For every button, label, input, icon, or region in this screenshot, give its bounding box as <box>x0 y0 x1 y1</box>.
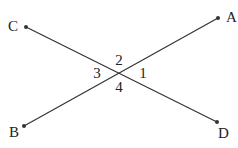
point-b-dot <box>22 124 26 128</box>
point-c-label: C <box>8 18 18 34</box>
point-d-label: D <box>218 125 229 141</box>
point-c-dot <box>24 25 28 29</box>
angle-1-label: 1 <box>139 65 147 81</box>
line-cd <box>26 27 217 122</box>
point-b-label: B <box>9 124 19 140</box>
point-d-dot <box>215 120 219 124</box>
point-a-dot <box>216 16 220 20</box>
angle-3-label: 3 <box>93 65 101 81</box>
line-ab <box>24 18 218 126</box>
angle-2-label: 2 <box>115 52 123 68</box>
point-a-label: A <box>226 9 237 25</box>
diagram-canvas: ABCD 1234 <box>0 0 238 148</box>
angle-4-label: 4 <box>115 79 123 95</box>
